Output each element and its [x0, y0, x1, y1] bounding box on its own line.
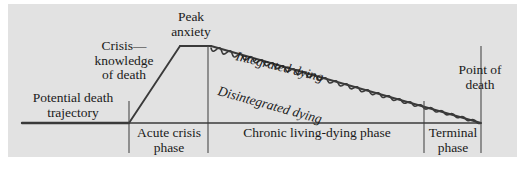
label-point-of-death-line2: death: [465, 77, 494, 92]
label-crisis-line2: knowledge: [94, 53, 153, 68]
label-peak-anxiety: Peak anxiety: [151, 10, 231, 39]
label-peak-anxiety-line2: anxiety: [171, 24, 211, 39]
label-acute-line2: phase: [154, 140, 185, 155]
label-acute-line1: Acute crisis: [137, 125, 201, 140]
label-potential-death-trajectory: Potential death trajectory: [18, 91, 128, 120]
label-chronic-living-dying-phase: Chronic living-dying phase: [212, 126, 422, 141]
label-terminal-line1: Terminal: [429, 125, 478, 140]
figure-container: Peak anxiety Crisis— knowledge of death …: [0, 0, 526, 175]
label-potential-line2: trajectory: [47, 105, 99, 120]
label-terminal-phase: Terminal phase: [426, 126, 480, 155]
label-point-of-death-line1: Point of: [458, 62, 501, 77]
label-crisis-line3: of death: [102, 67, 146, 82]
label-crisis-line1: Crisis—: [101, 38, 146, 53]
label-point-of-death: Point of death: [444, 63, 516, 92]
label-peak-anxiety-line1: Peak: [178, 9, 204, 24]
label-potential-line1: Potential death: [33, 90, 114, 105]
label-acute-crisis-phase: Acute crisis phase: [132, 126, 206, 155]
label-crisis-knowledge-of-death: Crisis— knowledge of death: [82, 39, 166, 83]
label-terminal-line2: phase: [438, 140, 469, 155]
